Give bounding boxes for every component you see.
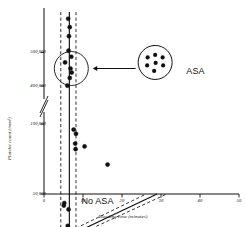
y-tick-label-400000: 400,000	[8, 83, 46, 88]
asa-legend-dot	[146, 55, 150, 59]
asa-legend-dot	[161, 63, 165, 67]
data-point	[105, 163, 109, 167]
y-tick-label-100000: 100,000	[8, 121, 46, 126]
data-point	[74, 132, 78, 136]
y-axis-title: Platelet count (/mm³)	[7, 117, 12, 160]
pointer-arrow-head	[93, 66, 98, 71]
x-tick-label-50: 50	[227, 198, 246, 203]
data-point	[69, 55, 73, 59]
asa-legend-dot	[145, 63, 149, 67]
no-asa-annotation-label: No ASA	[81, 196, 113, 206]
data-point	[63, 60, 67, 64]
x-tick-label-0: 0	[32, 198, 56, 203]
x-tick-label-40: 40	[188, 198, 212, 203]
asa-legend-dot	[153, 53, 157, 57]
asa-legend-dot	[154, 61, 158, 65]
x-tick-label-20: 20	[110, 198, 134, 203]
asa-legend-dot	[152, 69, 156, 73]
y-tick-label-500000: 500,000	[8, 49, 46, 54]
data-point	[73, 147, 77, 151]
data-point	[66, 207, 70, 211]
data-point	[66, 17, 70, 21]
x-axis-title: Bleeding time (minutes)	[0, 214, 246, 219]
data-point	[68, 66, 72, 70]
data-point	[66, 224, 70, 227]
data-point	[68, 76, 72, 80]
x-tick-label-30: 30	[149, 198, 173, 203]
data-point	[73, 142, 77, 146]
y-tick-label-50000: 50,000	[8, 191, 46, 196]
confidence-bands-group	[61, 12, 167, 227]
data-point	[72, 128, 76, 132]
data-point	[68, 25, 72, 29]
data-point	[62, 204, 66, 208]
asa-legend-dot	[161, 55, 165, 59]
data-point	[70, 70, 74, 74]
data-point	[82, 144, 86, 148]
annotations-group	[54, 45, 172, 85]
asa-annotation-label: ASA	[186, 66, 204, 76]
data-point	[67, 34, 71, 38]
figure: 500,000 400,000 100,000 50,000 0 10 20 3…	[0, 0, 246, 227]
